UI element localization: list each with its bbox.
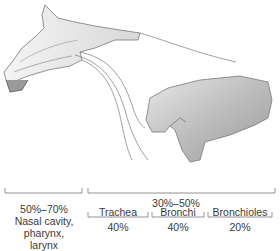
bracket-upper-airway [5,188,82,193]
upper-airway-range: 50%–70% [5,203,83,215]
lungs [146,76,272,162]
bronchi-value: 40% [152,221,204,233]
upper-airway-label-line1: Nasal cavity, [5,215,83,227]
trachea-label: Trachea [88,206,148,218]
bracket-lower-airway [88,188,275,193]
bronchioles-label: Bronchioles [208,206,272,218]
upper-airway-label-line3: larynx [5,239,83,251]
bronchi-label: Bronchi [152,206,204,218]
upper-airway-label-line2: pharynx, [5,227,83,239]
trachea-value: 40% [88,221,148,233]
bronchioles-value: 20% [208,221,272,233]
